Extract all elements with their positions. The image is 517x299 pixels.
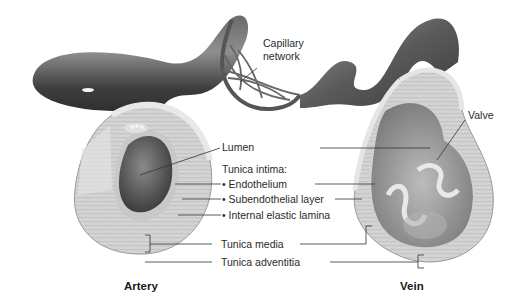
label-tunica-intima: Tunica intima: — [222, 163, 287, 175]
blood-vessel-diagram: Capillary network Lumen Tunica intima: E… — [0, 0, 517, 299]
label-endothelium: Endothelium — [222, 178, 287, 190]
label-capillary-network-line2: network — [263, 50, 300, 62]
artery-title: Artery — [124, 280, 158, 292]
label-subendothelial-layer: Subendothelial layer — [222, 193, 324, 205]
label-valve: Valve — [468, 109, 494, 121]
label-tunica-adventitia: Tunica adventitia — [221, 256, 300, 268]
label-internal-elastic-lamina: Internal elastic lamina — [222, 209, 330, 221]
label-tunica-media: Tunica media — [221, 238, 284, 250]
artery-cross-section — [74, 105, 211, 254]
label-lumen: Lumen — [222, 141, 254, 153]
label-capillary-network-line1: Capillary — [263, 37, 304, 49]
vein-title: Vein — [400, 280, 424, 292]
diagram-artwork — [0, 0, 517, 299]
